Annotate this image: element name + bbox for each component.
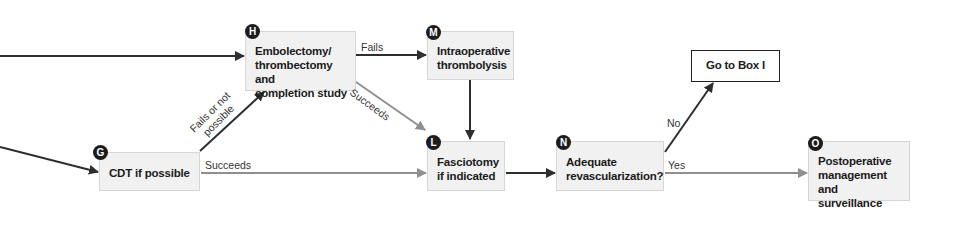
node-h-embolectomy: Embolectomy/ thrombectomy and completion… xyxy=(245,31,356,91)
node-m-line2: thrombolysis xyxy=(437,58,509,72)
node-n-line1: Adequate xyxy=(566,155,659,169)
node-o-badge: O xyxy=(808,136,823,151)
node-g-cdt: CDT if possible xyxy=(99,152,200,191)
node-o-line1: Postoperative xyxy=(818,154,905,168)
node-l-line1: Fasciotomy xyxy=(437,155,500,169)
node-g-text: CDT if possible xyxy=(109,166,195,180)
label-n-to-o-yes: Yes xyxy=(668,159,685,171)
node-h-line1: Embolectomy/ xyxy=(255,44,351,58)
node-box-i-text: Go to Box I xyxy=(692,51,779,80)
label-g-to-l-succeeds: Succeeds xyxy=(205,159,251,171)
node-h-line3: completion study xyxy=(255,86,351,100)
node-o-postoperative: Postoperative management and surveillanc… xyxy=(808,141,910,201)
node-n-line2: revascularization? xyxy=(566,169,659,183)
label-h-to-m-fails: Fails xyxy=(361,41,383,53)
node-l-badge: L xyxy=(426,135,441,150)
node-m-badge: M xyxy=(426,25,441,40)
node-m-line1: Intraoperative xyxy=(437,44,509,58)
node-o-line3: surveillance xyxy=(818,196,905,210)
node-o-line2: management and xyxy=(818,168,905,196)
node-n-revascularization: Adequate revascularization? xyxy=(556,141,664,191)
node-go-to-box-i: Go to Box I xyxy=(691,50,780,82)
node-l-line2: if indicated xyxy=(437,169,500,183)
node-h-line2: thrombectomy and xyxy=(255,58,351,86)
node-h-badge: H xyxy=(245,24,260,39)
arrow-incoming-to-g xyxy=(0,147,98,172)
node-m-thrombolysis: Intraoperative thrombolysis xyxy=(427,31,514,80)
label-n-to-box-i-no: No xyxy=(667,117,680,129)
node-n-badge: N xyxy=(556,135,571,150)
node-g-badge: G xyxy=(93,145,108,160)
node-l-fasciotomy: Fasciotomy if indicated xyxy=(427,141,505,191)
